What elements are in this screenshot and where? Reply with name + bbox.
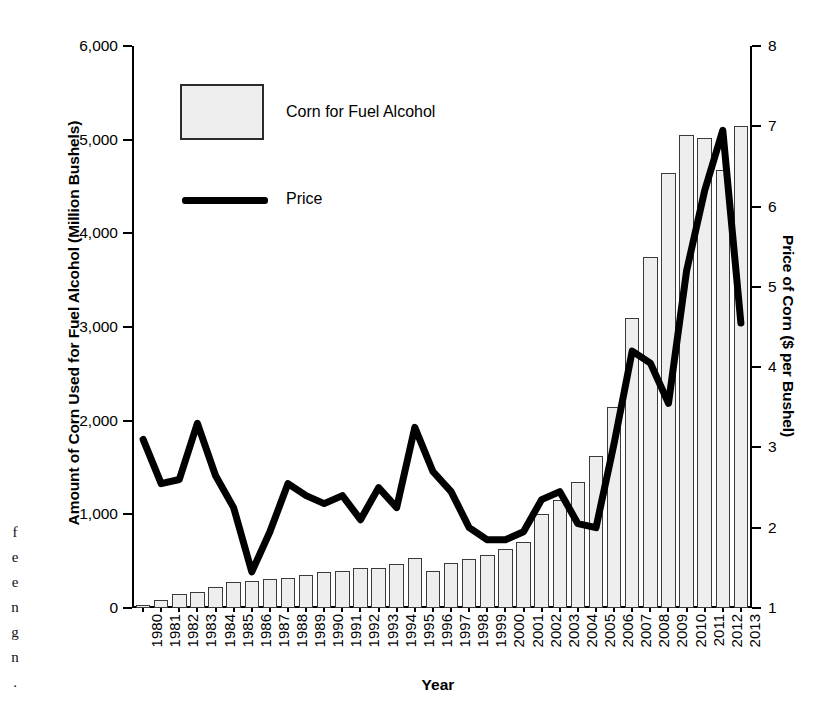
x-axis-tick-label: 2004 xyxy=(584,614,599,647)
x-axis-tick-label: 1980 xyxy=(149,614,164,647)
left-axis-tick xyxy=(123,607,132,609)
x-axis-tick-label: 2009 xyxy=(674,614,689,647)
x-axis-tick xyxy=(251,608,253,612)
left-axis-tick-label: 1,000 xyxy=(79,506,118,522)
x-axis-tick-label: 1998 xyxy=(475,614,490,647)
x-axis-tick xyxy=(287,608,289,612)
legend-bar-swatch xyxy=(180,84,264,140)
x-axis-tick xyxy=(704,608,706,612)
x-axis-tick-label: 2013 xyxy=(747,614,762,647)
right-axis-tick xyxy=(752,125,761,127)
x-axis-tick-label: 1993 xyxy=(385,614,400,647)
left-axis-tick xyxy=(123,139,132,141)
right-axis-tick xyxy=(752,366,761,368)
right-axis-tick xyxy=(752,527,761,529)
right-axis-tick-label: 2 xyxy=(768,520,777,536)
left-axis-tick-label: 4,000 xyxy=(79,225,118,241)
x-axis-tick xyxy=(541,608,543,612)
legend-bar-label: Corn for Fuel Alcohol xyxy=(286,103,435,121)
page-margin-char: e xyxy=(2,570,28,595)
x-axis-tick xyxy=(196,608,198,612)
x-axis-tick-label: 1999 xyxy=(493,614,508,647)
legend-line-label: Price xyxy=(286,190,322,208)
left-axis-tick xyxy=(123,232,132,234)
x-axis-tick xyxy=(269,608,271,612)
x-axis-tick xyxy=(215,608,217,612)
x-axis-tick-label: 1989 xyxy=(312,614,327,647)
right-axis-title: Price of Corn ($ per Bushel) xyxy=(779,76,797,596)
right-axis-tick-label: 6 xyxy=(768,199,777,215)
x-axis-tick-label: 1984 xyxy=(222,614,237,647)
x-axis-tick xyxy=(178,608,180,612)
x-axis-tick-label: 1981 xyxy=(167,614,182,647)
x-axis-tick-label: 2006 xyxy=(620,614,635,647)
x-axis-tick-label: 1997 xyxy=(457,614,472,647)
page-margin-char: n xyxy=(2,645,28,670)
x-axis-tick xyxy=(359,608,361,612)
x-axis-tick-label: 1990 xyxy=(330,614,345,647)
page-margin-char: e xyxy=(2,545,28,570)
x-axis-tick-label: 2011 xyxy=(711,614,726,646)
left-axis-tick xyxy=(123,45,132,47)
left-axis-tick xyxy=(123,326,132,328)
x-axis-tick-label: 2007 xyxy=(638,614,653,647)
x-axis-tick xyxy=(595,608,597,612)
right-axis-tick-label: 7 xyxy=(768,118,777,134)
x-axis-tick-label: 1988 xyxy=(294,614,309,647)
right-axis-tick xyxy=(752,446,761,448)
x-axis-tick-label: 1996 xyxy=(439,614,454,647)
left-axis-tick-label: 3,000 xyxy=(79,319,118,335)
right-axis-tick-label: 4 xyxy=(768,359,777,375)
x-axis-tick xyxy=(396,608,398,612)
right-axis-tick xyxy=(752,45,761,47)
x-axis-tick xyxy=(160,608,162,612)
right-axis-tick xyxy=(752,286,761,288)
x-axis-tick-label: 1991 xyxy=(348,614,363,647)
left-axis-tick-label: 2,000 xyxy=(79,413,118,429)
x-axis-tick-label: 2003 xyxy=(566,614,581,647)
right-axis-tick xyxy=(752,607,761,609)
x-axis-tick xyxy=(613,608,615,612)
right-axis-tick-label: 5 xyxy=(768,279,777,295)
x-axis-tick-label: 1985 xyxy=(240,614,255,647)
x-axis-tick-label: 1986 xyxy=(258,614,273,647)
left-axis-tick-label: 0 xyxy=(109,600,118,616)
left-axis-tick xyxy=(123,420,132,422)
left-axis-tick-label: 5,000 xyxy=(79,132,118,148)
x-axis-tick xyxy=(577,608,579,612)
x-axis-tick-label: 2000 xyxy=(511,614,526,647)
x-axis-tick xyxy=(305,608,307,612)
x-axis-tick xyxy=(233,608,235,612)
x-axis-tick xyxy=(523,608,525,612)
x-axis-tick xyxy=(468,608,470,612)
x-axis-tick xyxy=(686,608,688,612)
x-axis-title: Year xyxy=(0,676,834,694)
x-axis-tick xyxy=(432,608,434,612)
x-axis-tick-labels: 1980198119821983198419851986198719881989… xyxy=(132,612,752,676)
x-axis-tick xyxy=(414,608,416,612)
right-axis-tick-label: 3 xyxy=(768,439,777,455)
x-axis-tick xyxy=(142,608,144,612)
right-axis-tick-label: 8 xyxy=(768,38,777,54)
x-axis-tick xyxy=(378,608,380,612)
left-axis-tick-label: 6,000 xyxy=(79,38,118,54)
right-axis-tick xyxy=(752,206,761,208)
x-axis-tick xyxy=(504,608,506,612)
x-axis-tick-label: 2001 xyxy=(530,614,545,647)
legend-line-swatch xyxy=(182,197,268,204)
right-axis-tick-label: 1 xyxy=(768,600,777,616)
page-margin-char: n xyxy=(2,595,28,620)
x-axis-tick-label: 1983 xyxy=(203,614,218,647)
x-axis-tick xyxy=(740,608,742,612)
x-axis-tick xyxy=(667,608,669,612)
x-axis-tick-label: 2012 xyxy=(729,614,744,647)
page-margin-bleed-text: feengn. xyxy=(2,520,28,695)
x-axis-tick-label: 1992 xyxy=(366,614,381,647)
x-axis-tick xyxy=(631,608,633,612)
page-margin-char: g xyxy=(2,620,28,645)
x-axis-tick xyxy=(559,608,561,612)
x-axis-tick-label: 1982 xyxy=(185,614,200,647)
x-axis-tick xyxy=(323,608,325,612)
x-axis-tick-label: 2008 xyxy=(656,614,671,647)
x-axis-tick-label: 2010 xyxy=(693,614,708,647)
